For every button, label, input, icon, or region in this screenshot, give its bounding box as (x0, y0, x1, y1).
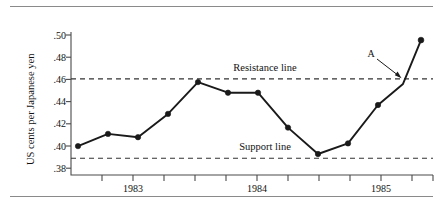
y-tick-label: .46 (54, 74, 67, 85)
x-tick-labels: 1983 1984 1985 (123, 183, 391, 194)
annotation-a: A (367, 48, 401, 78)
y-axis-ticks (66, 35, 71, 168)
x-tick-label-1984: 1984 (247, 183, 267, 194)
y-axis-title-text: US cents per Japanese yen (25, 53, 36, 165)
y-tick-labels: .50 .48 .46 .44 .42 .40 .38 (54, 30, 67, 174)
support-line-label: Support line (239, 141, 291, 152)
annotation-a-label: A (367, 48, 375, 59)
y-tick-label: .50 (54, 30, 67, 41)
y-tick-label: .38 (54, 163, 67, 174)
y-tick-label: .42 (54, 118, 67, 129)
chart-svg: US cents per Japanese yen .50 .48 .46 .4… (0, 0, 443, 207)
annotation-arrow-icon (395, 72, 402, 79)
y-tick-label: .48 (54, 52, 67, 63)
y-tick-label: .40 (54, 141, 67, 152)
figure-container: US cents per Japanese yen .50 .48 .46 .4… (0, 0, 443, 207)
y-axis-title: US cents per Japanese yen (25, 53, 36, 165)
x-axis-ticks (102, 175, 433, 181)
y-tick-label: .44 (54, 96, 67, 107)
resistance-line-label: Resistance line (233, 62, 297, 73)
x-tick-label-1985: 1985 (371, 183, 391, 194)
x-tick-label-1983: 1983 (123, 183, 143, 194)
